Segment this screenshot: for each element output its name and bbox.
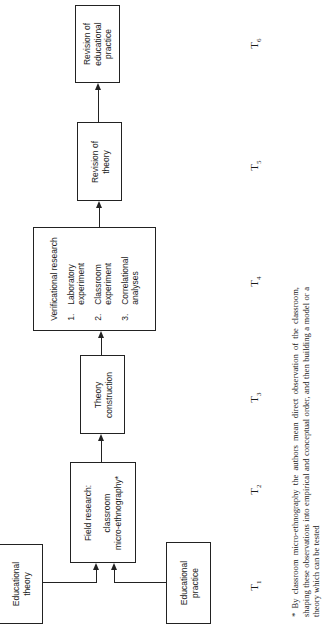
- educational-practice-box: Educational practice: [166, 542, 211, 624]
- verificational-research-title: Verificational research: [49, 237, 60, 321]
- field-research-content: Field research: classroom micro-ethnogra…: [83, 475, 124, 549]
- verification-item-3-num: 3.: [119, 312, 140, 321]
- revision-of-practice-label: Revision of educational practice: [82, 22, 114, 65]
- arrow-practice-to-field: [111, 563, 117, 570]
- field-research-box: Field research: classroom micro-ethnogra…: [70, 462, 136, 563]
- verification-item-1-text: Laboratory experiment: [65, 263, 86, 305]
- connector-revision-to-practice: [98, 89, 99, 122]
- arrow-field-to-construction: [98, 434, 104, 441]
- revision-of-practice-box: Revision of educational practice: [75, 5, 120, 83]
- time-label-t2: T2: [248, 484, 263, 494]
- connector-verification-to-revision: [99, 206, 100, 227]
- educational-theory-box: Educational theory: [0, 544, 43, 624]
- educational-theory-label: Educational theory: [10, 562, 31, 606]
- revision-of-theory-label: Revision of theory: [89, 140, 110, 182]
- theory-construction-box: Theory construction: [80, 355, 125, 434]
- verification-item-1-num: 1.: [65, 312, 86, 321]
- verificational-research-box: Verificational research 1. Laboratory ex…: [33, 227, 156, 331]
- time-label-t6: T6: [248, 38, 263, 48]
- time-label-t5: T5: [248, 160, 263, 170]
- connector-theory-h: [43, 582, 97, 583]
- connector-field-to-construction: [101, 439, 102, 462]
- verification-item-3-text: Correlational analyses: [119, 257, 140, 305]
- verification-item-3: 3. Correlational analyses: [119, 237, 140, 321]
- verificational-research-content: Verificational research 1. Laboratory ex…: [49, 237, 141, 321]
- arrow-verification-to-revision: [96, 201, 102, 208]
- verification-item-2: 2. Classroom experiment: [92, 237, 113, 321]
- field-research-line2: micro-ethnography*: [113, 475, 124, 549]
- arrow-revision-to-practice: [95, 83, 101, 90]
- field-research-title: Field research:: [83, 475, 94, 549]
- theory-construction-label: Theory construction: [92, 372, 113, 418]
- verification-item-2-text: Classroom experiment: [92, 263, 113, 305]
- time-label-t3: T3: [248, 392, 263, 402]
- revision-of-theory-box: Revision of theory: [77, 122, 122, 201]
- connector-theory-v: [96, 569, 97, 583]
- connector-construction-to-verification: [101, 336, 102, 355]
- connector-practice-v: [114, 569, 115, 583]
- arrow-theory-to-field: [93, 563, 99, 570]
- connector-practice-h: [114, 582, 166, 583]
- field-research-line1: classroom: [102, 475, 113, 549]
- educational-practice-label: Educational practice: [178, 561, 199, 605]
- verification-item-2-num: 2.: [92, 312, 113, 321]
- time-label-t4: T4: [248, 276, 263, 286]
- verification-item-1: 1. Laboratory experiment: [65, 237, 86, 321]
- time-label-t1: T1: [248, 580, 263, 590]
- footnote: * By classroom micro-ethnography the aut…: [290, 287, 322, 617]
- arrow-construction-to-verification: [98, 331, 104, 338]
